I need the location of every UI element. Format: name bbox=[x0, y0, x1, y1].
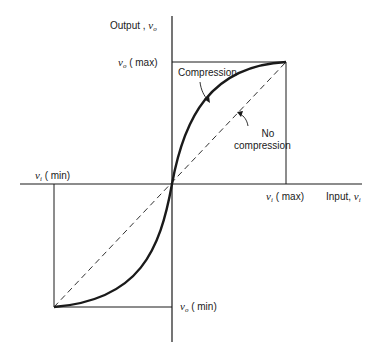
no-compression-label-line2: compression bbox=[234, 140, 291, 152]
vo-max-label: vo ( max) bbox=[118, 56, 158, 72]
vo-min-label: vo ( min) bbox=[180, 300, 217, 316]
compression-label: Compression bbox=[178, 67, 237, 79]
vi-min-label: vi ( min) bbox=[35, 169, 70, 185]
x-axis-label: Input, vi bbox=[326, 190, 361, 206]
y-axis-label: Output , vo bbox=[110, 19, 157, 35]
vi-max-label: vi ( max) bbox=[266, 190, 304, 206]
no-compression-label-line1: No bbox=[248, 128, 288, 140]
no-compression-arrowhead bbox=[237, 111, 243, 117]
